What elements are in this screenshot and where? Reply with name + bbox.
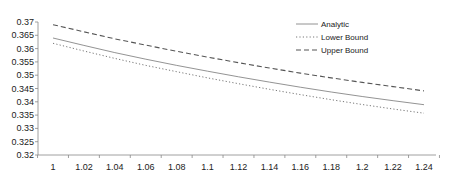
y-axis: 0.320.3250.330.3350.340.3450.350.3550.36… bbox=[11, 17, 38, 160]
series-line-upper-bound bbox=[53, 25, 424, 91]
x-tick-label: 1.16 bbox=[292, 162, 310, 172]
y-tick-label: 0.33 bbox=[16, 123, 34, 133]
y-tick-label: 0.35 bbox=[16, 70, 34, 80]
series-line-lower-bound bbox=[53, 43, 424, 113]
y-tick-label: 0.345 bbox=[11, 84, 34, 94]
legend: Analytic Lower Bound Upper Bound bbox=[296, 20, 368, 55]
plot-area bbox=[53, 25, 424, 114]
x-tick-label: 1.1 bbox=[201, 162, 214, 172]
x-tick-label: 1.18 bbox=[322, 162, 340, 172]
y-tick-label: 0.36 bbox=[16, 44, 34, 54]
y-tick-label: 0.32 bbox=[16, 150, 34, 160]
series-line-analytic bbox=[53, 38, 424, 105]
legend-label-upper-bound: Upper Bound bbox=[321, 46, 368, 55]
x-tick-label: 1.14 bbox=[261, 162, 279, 172]
y-tick-label: 0.34 bbox=[16, 97, 34, 107]
x-tick-label: 1.2 bbox=[356, 162, 369, 172]
x-tick-label: 1.06 bbox=[137, 162, 155, 172]
x-tick-label: 1.08 bbox=[168, 162, 186, 172]
legend-label-analytic: Analytic bbox=[321, 20, 349, 29]
x-tick-label: 1 bbox=[50, 162, 55, 172]
x-tick-label: 1.02 bbox=[75, 162, 93, 172]
x-tick-label: 1.12 bbox=[230, 162, 248, 172]
line-chart: 0.320.3250.330.3350.340.3450.350.3550.36… bbox=[0, 0, 455, 180]
y-tick-label: 0.355 bbox=[11, 57, 34, 67]
legend-label-lower-bound: Lower Bound bbox=[321, 33, 368, 42]
x-tick-label: 1.04 bbox=[106, 162, 124, 172]
x-tick-label: 1.24 bbox=[415, 162, 433, 172]
y-tick-label: 0.37 bbox=[16, 17, 34, 27]
y-tick-label: 0.335 bbox=[11, 110, 34, 120]
x-axis: 11.021.041.061.081.11.121.141.161.181.21… bbox=[38, 155, 440, 172]
x-tick-label: 1.22 bbox=[384, 162, 402, 172]
y-tick-label: 0.325 bbox=[11, 137, 34, 147]
y-tick-label: 0.365 bbox=[11, 30, 34, 40]
